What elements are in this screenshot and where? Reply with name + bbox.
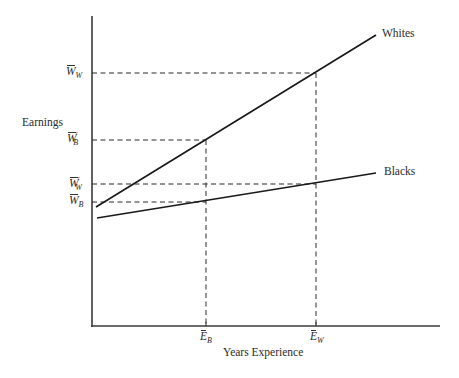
- y-axis-title: Earnings: [22, 116, 63, 128]
- y-tick-W-prime-B: W′B: [67, 131, 78, 147]
- series-label-blacks: Blacks: [384, 165, 415, 177]
- x-tick-E-W: EW: [310, 330, 324, 345]
- series-line-whites: [96, 35, 376, 207]
- x-tick-E-B: EB: [200, 330, 212, 345]
- y-tick-W-B: WB: [69, 194, 83, 209]
- x-axis-title: Years Experience: [223, 346, 303, 358]
- series-label-whites: Whites: [382, 27, 415, 39]
- y-tick-W-W: WW: [66, 65, 82, 80]
- y-tick-W-prime-W: W′W: [69, 176, 82, 192]
